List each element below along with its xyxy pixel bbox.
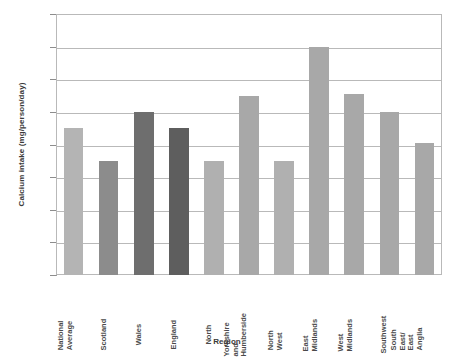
bar xyxy=(169,128,189,275)
x-axis-label-text: West Midlands xyxy=(337,319,354,352)
bars-container xyxy=(56,14,442,275)
x-axis-label-text: Yorkshire and Humberside xyxy=(223,313,249,356)
bar xyxy=(415,143,435,275)
bar xyxy=(134,112,154,275)
bar xyxy=(204,161,224,275)
bar xyxy=(99,161,119,275)
bar-slot xyxy=(134,14,154,275)
bar-slot xyxy=(344,14,364,275)
bar-slot xyxy=(274,14,294,275)
bar xyxy=(380,112,400,275)
bar-slot xyxy=(204,14,224,275)
x-axis-label-text: East Midlands xyxy=(302,319,319,352)
x-axis-title: Region xyxy=(0,337,454,346)
bar-slot xyxy=(309,14,329,275)
bar xyxy=(239,96,259,275)
bar-slot xyxy=(415,14,435,275)
x-axis-label: South East/ East Anglia xyxy=(394,277,454,335)
x-axis-labels: National AverageScotlandWalesEnglandNort… xyxy=(56,277,442,335)
bar-slot xyxy=(64,14,84,275)
bar-slot xyxy=(99,14,119,275)
x-axis-label-text: Scotland xyxy=(100,319,109,351)
y-axis-tick-mark xyxy=(50,275,56,276)
bar xyxy=(309,47,329,275)
bar xyxy=(64,128,84,275)
bar-slot xyxy=(169,14,189,275)
bar xyxy=(274,161,294,275)
bar xyxy=(344,94,364,275)
bar-chart: Calcium intake (mg/person/day) 720740760… xyxy=(0,0,454,357)
bar-slot xyxy=(380,14,400,275)
y-axis-title: Calcium intake (mg/person/day) xyxy=(17,50,26,240)
bar-slot xyxy=(239,14,259,275)
